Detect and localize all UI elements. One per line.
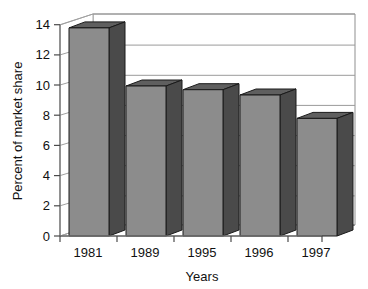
y-tick-label-8: 8 xyxy=(43,108,50,123)
bar-1997-front-face xyxy=(297,118,337,236)
bar-1996-side-face xyxy=(280,89,296,236)
y-tick-label-2: 2 xyxy=(43,198,50,213)
x-tick-label-1996: 1996 xyxy=(245,245,274,260)
bar-1989-front-face xyxy=(126,86,166,236)
x-tick-label-1981: 1981 xyxy=(74,245,103,260)
y-axis-title: Percent of market share xyxy=(10,62,25,201)
y-tick-label-10: 10 xyxy=(36,78,50,93)
y-tick-label-0: 0 xyxy=(43,229,50,244)
bar-1981[interactable] xyxy=(69,22,125,236)
bar-1981-front-face xyxy=(69,28,109,236)
bar-1997-side-face xyxy=(337,112,353,236)
x-axis-title: Years xyxy=(186,269,219,284)
bar-1996[interactable] xyxy=(240,89,296,236)
x-tick-label-1997: 1997 xyxy=(302,245,331,260)
bar-1995[interactable] xyxy=(183,84,239,236)
y-tick-label-12: 12 xyxy=(36,47,50,62)
bar-1995-front-face xyxy=(183,90,223,236)
bar-chart-figure: 0 2 4 6 8 10 12 14 xyxy=(0,0,368,289)
bar-1996-front-face xyxy=(240,95,280,236)
x-tick-label-1989: 1989 xyxy=(131,245,160,260)
x-tick-label-1995: 1995 xyxy=(188,245,217,260)
y-tick-label-14: 14 xyxy=(36,17,50,32)
y-tick-label-4: 4 xyxy=(43,168,50,183)
bar-1989-side-face xyxy=(166,80,182,236)
bar-1997[interactable] xyxy=(297,112,353,236)
chart-canvas: 0 2 4 6 8 10 12 14 xyxy=(0,0,368,289)
bar-1981-side-face xyxy=(109,22,125,236)
bar-1995-side-face xyxy=(223,84,239,236)
bar-1989[interactable] xyxy=(126,80,182,236)
y-tick-label-6: 6 xyxy=(43,138,50,153)
